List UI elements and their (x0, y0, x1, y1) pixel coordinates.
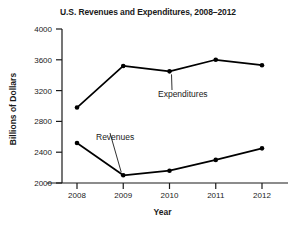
y-axis-ticks (56, 29, 62, 183)
x-tick-label: 2008 (57, 191, 97, 200)
x-axis-ticks (77, 183, 262, 189)
series-label-revenues: Revenues (96, 132, 134, 142)
y-tick-label: 2400 (18, 148, 52, 157)
y-tick-label: 2800 (18, 117, 52, 126)
x-tick-label: 2012 (242, 191, 282, 200)
y-tick-label: 2000 (18, 179, 52, 188)
data-series-layer (75, 58, 265, 178)
x-tick-label: 2011 (196, 191, 236, 200)
series-label-expenditures: Expenditures (158, 89, 208, 99)
y-tick-label: 3200 (18, 86, 52, 95)
y-tick-label: 4000 (18, 25, 52, 34)
y-tick-label: 3600 (18, 55, 52, 64)
x-tick-label: 2009 (103, 191, 143, 200)
x-tick-label: 2010 (150, 191, 190, 200)
chart-container: U.S. Revenues and Expenditures, 2008–201… (0, 0, 296, 226)
